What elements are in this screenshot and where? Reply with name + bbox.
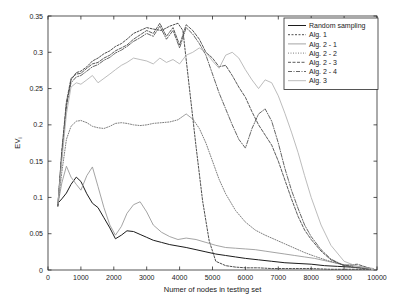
x-tick-label: 8000 xyxy=(303,274,319,281)
y-tick-label: 0.35 xyxy=(29,13,43,20)
legend-label-1[interactable]: Random sampling xyxy=(309,22,366,30)
x-tick-label: 0 xyxy=(46,274,50,281)
legend-label-2[interactable]: Alg. 1 xyxy=(309,31,327,39)
y-axis-title-subscript: i xyxy=(17,137,23,138)
y-tick-label: 0.2 xyxy=(33,121,43,128)
legend-label-7[interactable]: Alg. 3 xyxy=(309,77,327,85)
chart-legend[interactable]: Random samplingAlg. 1Alg. 2 - 1Alg. 2 - … xyxy=(284,18,378,89)
x-tick-label: 6000 xyxy=(238,274,254,281)
y-tick-label: 0.25 xyxy=(29,85,43,92)
x-tick-label: 4000 xyxy=(172,274,188,281)
x-tick-label: 7000 xyxy=(271,274,287,281)
x-tick-label: 2000 xyxy=(106,274,122,281)
x-tick-label: 1000 xyxy=(73,274,89,281)
x-tick-label: 3000 xyxy=(139,274,155,281)
legend-label-5[interactable]: Alg. 2 - 3 xyxy=(309,59,337,67)
x-tick-label: 9000 xyxy=(336,274,352,281)
legend-label-6[interactable]: Alg. 2 - 4 xyxy=(309,68,337,76)
chart-figure: 0100020003000400050006000700080009000100… xyxy=(0,0,402,308)
y-tick-label: 0.15 xyxy=(29,158,43,165)
y-tick-label: 0.3 xyxy=(33,49,43,56)
legend-label-3[interactable]: Alg. 2 - 1 xyxy=(309,41,337,49)
y-tick-label: 0.05 xyxy=(29,230,43,237)
x-tick-label: 10000 xyxy=(367,274,387,281)
y-axis-title: EVi xyxy=(13,137,23,148)
y-tick-label: 0.1 xyxy=(33,194,43,201)
y-tick-label: 0 xyxy=(39,267,43,274)
x-axis-title: Numer of nodes in testing set xyxy=(164,285,262,294)
legend-label-4[interactable]: Alg. 2 - 2 xyxy=(309,50,337,58)
x-tick-label: 5000 xyxy=(205,274,221,281)
